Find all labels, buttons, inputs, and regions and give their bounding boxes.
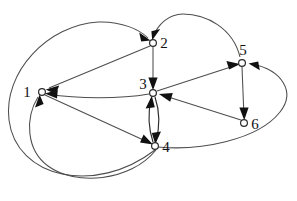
node-1[interactable]: 1 — [23, 84, 45, 100]
node-3-circle[interactable] — [150, 90, 157, 97]
graph-canvas: 1 2 3 4 5 6 — [0, 0, 297, 201]
node-6-label: 6 — [251, 116, 259, 132]
node-5-circle[interactable] — [239, 60, 246, 67]
arrowhead-2-to-3 — [148, 78, 157, 91]
node-5-label: 5 — [239, 42, 247, 58]
edge-2-to-3 — [148, 47, 157, 90]
edge-4-to-5 — [158, 61, 287, 147]
edge-4-to-1 — [30, 94, 156, 178]
edge-3-to-5 — [157, 61, 240, 91]
node-3-label: 3 — [139, 76, 147, 92]
edge-6-to-3 — [159, 93, 241, 120]
arrowhead-4-to-2 — [139, 33, 150, 42]
node-1-circle[interactable] — [39, 89, 46, 96]
node-1-label: 1 — [23, 84, 31, 100]
edge-3-to-1 — [45, 90, 149, 99]
arrowhead-4-to-3 — [146, 96, 155, 109]
arrowhead-6-to-3 — [159, 93, 173, 102]
graph-figure: 1 2 3 4 5 6 — [0, 0, 297, 201]
arrowhead-5-to-2 — [151, 29, 160, 40]
node-6-circle[interactable] — [241, 120, 248, 127]
node-6[interactable]: 6 — [241, 116, 260, 132]
node-2-label: 2 — [160, 35, 168, 51]
arrowhead-5-to-6 — [239, 107, 248, 120]
node-5[interactable]: 5 — [239, 42, 247, 66]
node-4-circle[interactable] — [152, 143, 159, 150]
node-2-circle[interactable] — [150, 40, 157, 47]
edge-5-to-6 — [239, 67, 248, 120]
edge-1-to-4 — [45, 95, 153, 144]
node-4-label: 4 — [162, 139, 170, 155]
arrowhead-4-to-5 — [249, 61, 260, 70]
edge-2-to-1 — [46, 46, 150, 94]
